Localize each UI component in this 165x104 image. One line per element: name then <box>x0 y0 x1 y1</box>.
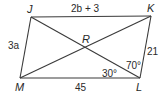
side-label-ml: 45 <box>75 82 87 93</box>
side-label-jm: 3a <box>8 40 20 51</box>
angle-label-30: 30° <box>102 68 117 79</box>
vertex-label-k: K <box>147 2 155 14</box>
side-jk <box>31 16 151 17</box>
vertex-label-m: M <box>15 81 25 93</box>
parallelogram-diagram: J K M L R 2b + 3 3a 21 45 70° 30° <box>0 0 165 104</box>
vertex-label-l: L <box>136 81 142 93</box>
intersection-label-r: R <box>82 33 90 45</box>
side-label-kl: 21 <box>147 46 159 57</box>
vertex-label-j: J <box>26 3 33 15</box>
side-label-jk: 2b + 3 <box>71 3 100 14</box>
side-mj <box>20 17 31 78</box>
angle-label-70: 70° <box>126 60 141 71</box>
